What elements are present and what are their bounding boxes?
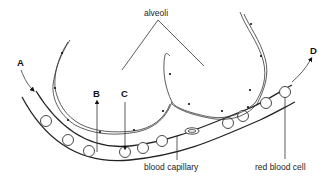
red-blood-cell-label: red blood cell <box>255 162 306 172</box>
alveoli-capillary-diagram: alveoli A B C D blood capillary red bloo… <box>0 0 333 181</box>
arrow-label-b: B <box>93 88 100 99</box>
blood-capillary-label: blood capillary <box>144 162 199 172</box>
arrow-label-a: A <box>17 57 24 68</box>
alveoli-pointers <box>122 20 204 70</box>
alveoli-label: alveoli <box>144 8 168 18</box>
arrow-label-c: C <box>121 88 128 99</box>
blood-capillary <box>22 85 295 161</box>
red-blood-cells <box>41 87 291 158</box>
alveoli <box>53 12 267 134</box>
arrow-label-d: D <box>310 45 317 56</box>
